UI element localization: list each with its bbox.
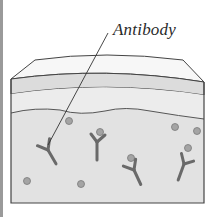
antibody-diagram: Antibody <box>0 0 213 217</box>
tissue-illustration <box>0 0 213 217</box>
antibody-label: Antibody <box>113 20 176 40</box>
fluid-layer <box>11 109 204 204</box>
